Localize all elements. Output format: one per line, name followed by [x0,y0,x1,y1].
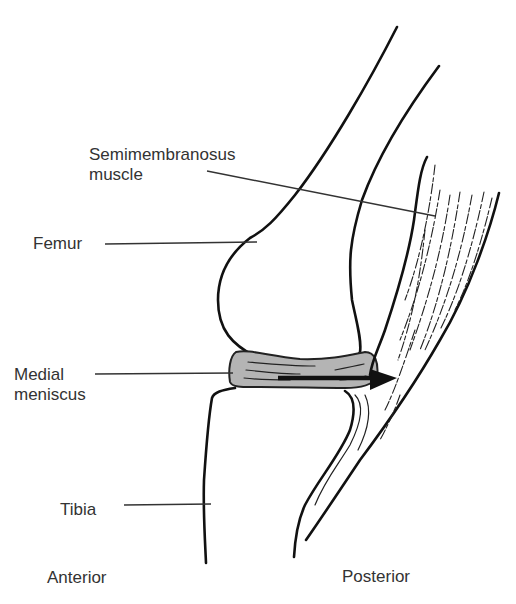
pull-arrow-head [370,369,397,390]
posterior-label: Posterior [342,567,410,587]
semimembranosus-label: Semimembranosus muscle [89,145,235,185]
tendon-outline [294,391,354,557]
tibia-label: Tibia [60,500,96,520]
meniscus-leader [95,373,233,374]
femur-outline [218,27,397,364]
medial-meniscus-shape [229,351,377,388]
semimembranosus-leader [207,171,435,216]
tibia-outline [204,388,235,563]
femur-leader [105,242,257,244]
muscle-fiber [385,330,415,410]
muscle-fiber [398,230,425,360]
tibia-leader [124,504,211,505]
femur-label: Femur [33,234,82,254]
muscle-fiber [455,198,492,310]
medial-meniscus-label-line1: Medial [14,365,86,385]
semimembranosus-label-line2: muscle [89,165,235,185]
anterior-label: Anterior [47,568,107,588]
muscle-anterior-outline [370,157,427,375]
semimembranosus-label-line1: Semimembranosus [89,145,235,165]
medial-meniscus-label: Medial meniscus [14,365,86,405]
medial-meniscus-label-line2: meniscus [14,385,86,405]
